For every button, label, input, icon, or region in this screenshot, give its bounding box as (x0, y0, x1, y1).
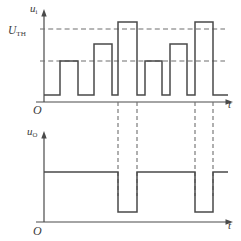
time-axis-label-top: t (228, 99, 231, 110)
input-axis-label: ui (30, 3, 37, 16)
waveform-canvas (0, 0, 241, 241)
origin-label-bottom: O (33, 225, 42, 237)
threshold-label: UTH (8, 25, 26, 38)
output-axis-label: uO (27, 126, 37, 139)
output-chart-group (36, 131, 233, 225)
input-chart-group (36, 9, 233, 105)
input-y-axis-arrow (41, 9, 46, 17)
connector-lines-group (118, 102, 213, 196)
origin-label-top: O (33, 104, 42, 116)
input-pulse-train (44, 22, 228, 95)
output-y-axis-arrow (41, 131, 46, 139)
time-axis-label-bottom: t (228, 220, 231, 231)
output-pulse-train (44, 172, 228, 212)
waveform-figure: ui UTH O t uO O t (0, 0, 241, 241)
